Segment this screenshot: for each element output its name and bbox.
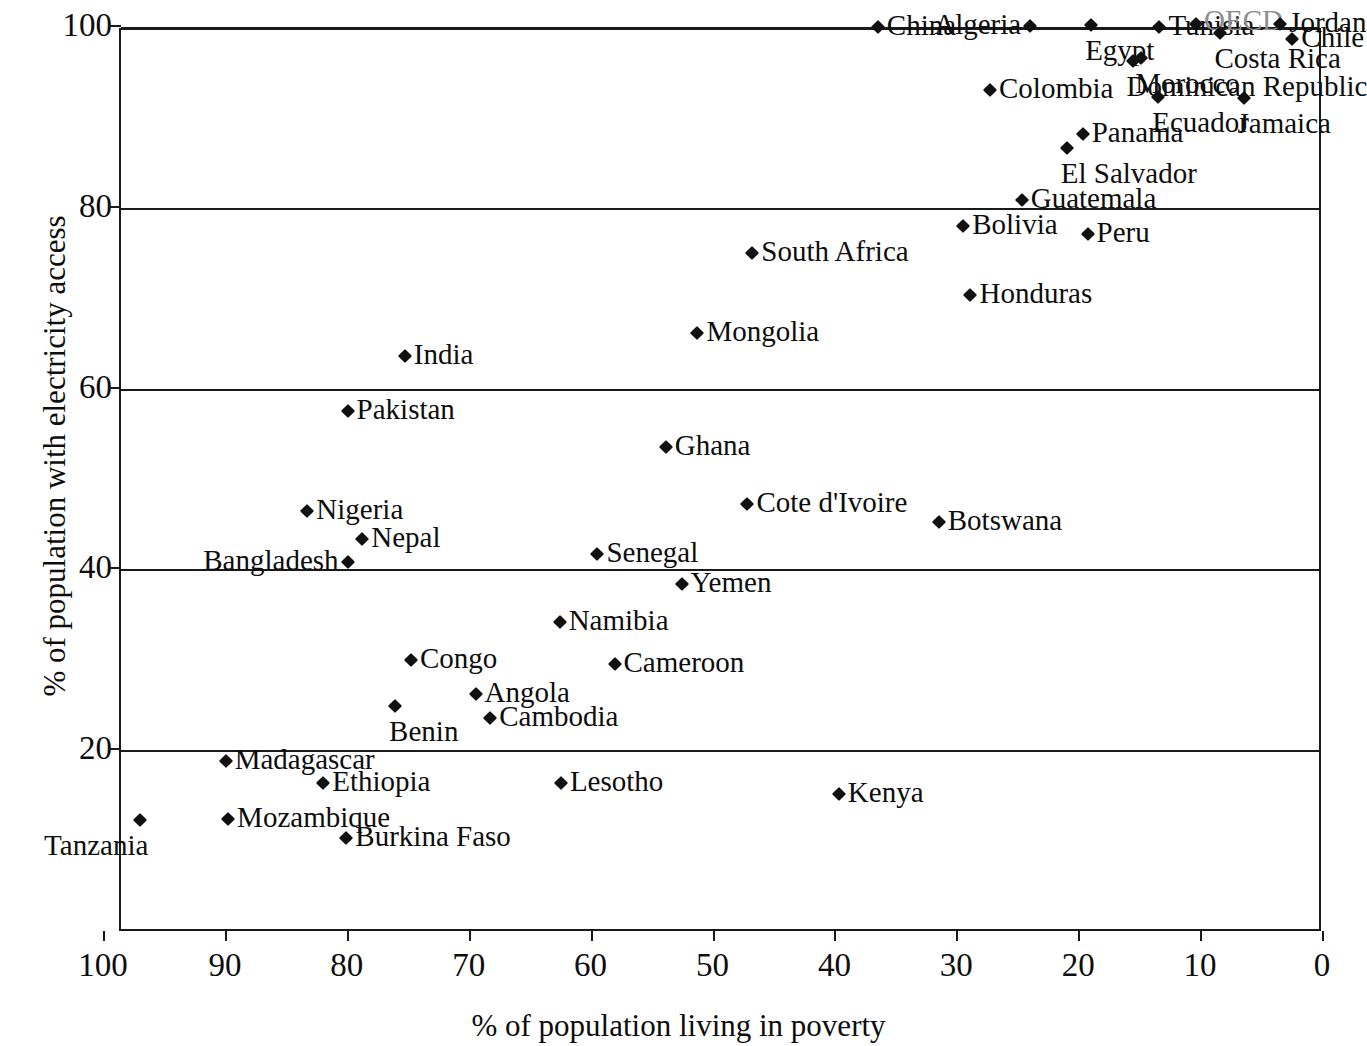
diamond-marker-icon: [983, 83, 997, 97]
diamond-marker-icon: [398, 349, 412, 363]
diamond-marker-icon: [483, 711, 497, 725]
gridline-y-60: [121, 389, 1319, 391]
diamond-marker-icon: [675, 577, 689, 591]
data-point-label: Kenya: [848, 776, 924, 809]
data-point-label: Peru: [1097, 216, 1150, 249]
data-point-label: Cameroon: [624, 646, 745, 679]
diamond-marker-icon: [316, 776, 330, 790]
x-tick-label-90: 90: [180, 946, 270, 984]
data-point-label: Egypt: [1085, 34, 1154, 67]
data-point-label: OECD: [1204, 4, 1283, 37]
x-tick-label-0: 0: [1277, 946, 1367, 984]
data-point-label: Ecuador: [1152, 106, 1249, 139]
data-point-label: Costa Rica: [1214, 42, 1340, 75]
diamond-marker-icon: [1189, 17, 1203, 31]
diamond-marker-icon: [963, 287, 977, 301]
x-tick-label-70: 70: [424, 946, 514, 984]
data-point-label: Jordan: [1289, 6, 1366, 39]
diamond-marker-icon: [607, 657, 621, 671]
data-point-label: Benin: [389, 715, 458, 748]
diamond-marker-icon: [553, 615, 567, 629]
data-point-label: Madagascar: [235, 743, 375, 776]
diamond-marker-icon: [1285, 32, 1299, 46]
diamond-marker-icon: [1084, 18, 1098, 32]
data-point-label: Algeria: [934, 8, 1021, 41]
diamond-marker-icon: [690, 326, 704, 340]
x-tick-mark-0: [1322, 931, 1324, 941]
diamond-marker-icon: [341, 404, 355, 418]
diamond-marker-icon: [1076, 127, 1090, 141]
y-tick-mark-60: [109, 387, 121, 389]
data-point-label: Tanzania: [44, 829, 148, 862]
diamond-marker-icon: [554, 775, 568, 789]
x-tick-mark-100: [103, 931, 105, 941]
y-tick-label-100: 100: [0, 6, 112, 44]
diamond-marker-icon: [468, 687, 482, 701]
gridline-y-80: [121, 208, 1319, 210]
data-point-label: Senegal: [606, 536, 698, 569]
data-point-label: Botswana: [948, 504, 1062, 537]
x-tick-mark-20: [1078, 931, 1080, 941]
data-point-label: Colombia: [999, 72, 1113, 105]
x-tick-label-10: 10: [1155, 946, 1245, 984]
x-tick-mark-90: [225, 931, 227, 941]
data-point-label: El Salvador: [1061, 157, 1197, 190]
data-point-label: Burkina Faso: [355, 820, 510, 853]
diamond-marker-icon: [659, 440, 673, 454]
x-tick-label-100: 100: [58, 946, 148, 984]
diamond-marker-icon: [1015, 193, 1029, 207]
data-point-label: Ethiopia: [332, 765, 430, 798]
plot-area: ChinaAlgeriaEgyptTunisiaOECDJordanCosta …: [119, 28, 1321, 931]
diamond-marker-icon: [1060, 141, 1074, 155]
gridline-y-20: [121, 750, 1319, 752]
data-point-label: Congo: [420, 642, 497, 675]
data-point-label: Namibia: [569, 604, 669, 637]
data-point-label: Pakistan: [357, 393, 455, 426]
diamond-marker-icon: [219, 754, 233, 768]
y-tick-mark-20: [109, 748, 121, 750]
diamond-marker-icon: [1126, 54, 1140, 68]
x-tick-mark-70: [469, 931, 471, 941]
y-tick-mark-80: [109, 206, 121, 208]
diamond-marker-icon: [300, 503, 314, 517]
diamond-marker-icon: [133, 813, 147, 827]
data-point-label: Nigeria: [316, 493, 403, 526]
diamond-marker-icon: [1236, 91, 1250, 105]
data-point-label: South Africa: [761, 235, 908, 268]
data-point-label: Ghana: [675, 429, 751, 462]
data-point-label: Cote d'Ivoire: [756, 486, 907, 519]
data-point-label: China: [887, 9, 956, 42]
x-tick-label-30: 30: [911, 946, 1001, 984]
diamond-marker-icon: [745, 246, 759, 260]
diamond-marker-icon: [1080, 227, 1094, 241]
x-tick-label-50: 50: [668, 946, 758, 984]
x-tick-mark-80: [347, 931, 349, 941]
y-tick-mark-40: [109, 567, 121, 569]
diamond-marker-icon: [932, 515, 946, 529]
x-tick-mark-30: [956, 931, 958, 941]
data-point-label: Mozambique: [237, 801, 390, 834]
diamond-marker-icon: [956, 219, 970, 233]
data-point-label: Mongolia: [706, 315, 819, 348]
diamond-marker-icon: [388, 699, 402, 713]
data-point-label: Lesotho: [570, 765, 663, 798]
data-point-label: Chile: [1301, 21, 1364, 54]
diamond-marker-icon: [590, 547, 604, 561]
data-point-label: Nepal: [371, 521, 440, 554]
data-point-label: Panama: [1092, 116, 1184, 149]
data-point-label: India: [414, 338, 474, 371]
x-tick-label-60: 60: [546, 946, 636, 984]
diamond-marker-icon: [341, 555, 355, 569]
y-axis-title: % of population with electricity access: [37, 136, 73, 776]
x-tick-mark-60: [591, 931, 593, 941]
data-point-label: Honduras: [979, 277, 1092, 310]
data-point-label: Cambodia: [499, 700, 618, 733]
x-tick-mark-10: [1200, 931, 1202, 941]
x-tick-mark-40: [834, 931, 836, 941]
diamond-marker-icon: [1273, 17, 1287, 31]
diamond-marker-icon: [740, 497, 754, 511]
x-tick-label-20: 20: [1033, 946, 1123, 984]
diamond-marker-icon: [339, 831, 353, 845]
diamond-marker-icon: [221, 812, 235, 826]
